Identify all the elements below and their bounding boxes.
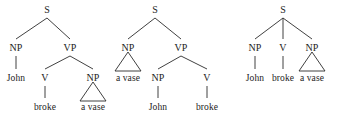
tree-edge xyxy=(47,18,70,39)
terminal-label-a-vase: a vase xyxy=(300,73,324,83)
node-label-np: NP xyxy=(152,73,165,83)
node-label-v: V xyxy=(203,73,210,83)
node-label-np: NP xyxy=(306,43,319,53)
node-label-vp: VP xyxy=(64,43,77,53)
terminal-label-broke: broke xyxy=(196,102,218,112)
phrase-triangle xyxy=(299,52,325,71)
tree-edge xyxy=(181,56,207,69)
terminal-label-broke: broke xyxy=(34,102,56,112)
tree-edge xyxy=(283,18,312,39)
terminal-label-john: John xyxy=(7,73,25,83)
phrase-triangle xyxy=(115,52,141,71)
node-label-v: V xyxy=(279,43,286,53)
terminal-label-a-vase: a vase xyxy=(116,73,140,83)
tree-edge xyxy=(16,18,47,39)
terminal-label-broke: broke xyxy=(272,73,294,83)
node-label-np: NP xyxy=(87,73,100,83)
tree-edge xyxy=(128,18,155,39)
tree-edge xyxy=(255,18,283,39)
syntax-tree-figure: SNPVPJohnVNPbrokea vaseSNPVPa vaseNPVJoh… xyxy=(0,0,345,119)
node-label-np: NP xyxy=(10,43,23,53)
tree-edge xyxy=(70,56,93,69)
terminal-label-john: John xyxy=(246,73,264,83)
terminal-label-john: John xyxy=(149,102,167,112)
terminal-label-a-vase: a vase xyxy=(81,102,105,112)
tree-edge xyxy=(45,56,70,69)
tree-edge xyxy=(158,56,181,69)
node-label-s: S xyxy=(152,5,158,15)
tree-edge xyxy=(155,18,181,39)
node-label-v: V xyxy=(41,73,48,83)
node-label-vp: VP xyxy=(175,43,188,53)
node-label-s: S xyxy=(280,5,286,15)
phrase-triangle xyxy=(80,82,106,101)
node-label-s: S xyxy=(44,5,50,15)
node-label-np: NP xyxy=(249,43,262,53)
node-label-np: NP xyxy=(122,43,135,53)
